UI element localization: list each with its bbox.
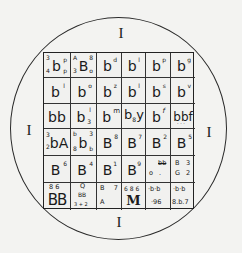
die-cell: B 4: [71, 156, 97, 183]
dots-mark: · · ·: [177, 120, 185, 126]
die-cell: 3 4 b p p: [44, 53, 71, 78]
label-mid: BB: [78, 191, 86, 198]
label-tr: d: [113, 57, 117, 63]
die-cell: b l: [122, 78, 146, 104]
die-cell: b f: [146, 104, 171, 129]
die-label: b: [177, 59, 186, 73]
die-label: B: [127, 136, 137, 150]
label-tl: b: [73, 131, 77, 137]
die-cell: A 3 B 8 o: [71, 53, 97, 78]
die-cell: B 5: [171, 129, 195, 156]
die-label: b: [152, 59, 161, 73]
wafer-diagram: I I I I 3 4 b p p A 3 B 8 o b d b l b p: [0, 0, 242, 253]
label-tr: 7: [114, 185, 118, 192]
label-br: o: [89, 68, 93, 74]
die-cell: 6 8 6 M: [122, 183, 146, 210]
die-label: b: [51, 85, 60, 99]
mark-left: I: [27, 123, 32, 138]
die-cell: b8y: [122, 104, 146, 129]
label-tl: B: [100, 185, 104, 192]
die-cell: B 9: [122, 156, 146, 183]
die-label: b: [103, 59, 112, 73]
die-cell: b z: [97, 78, 122, 104]
label-tl: 3: [46, 55, 50, 61]
die-label: b: [128, 85, 137, 99]
die-label: b: [78, 85, 87, 99]
die-label: B: [152, 136, 162, 150]
label-tr: m: [113, 108, 120, 114]
die-cell: B 3 G 2: [171, 156, 195, 183]
label-tl: A: [73, 55, 77, 61]
label-tr: p: [162, 57, 166, 63]
label-br: b: [89, 146, 93, 152]
label-bl: 8: [73, 146, 77, 152]
die-cell: 3 2 bA: [44, 129, 71, 156]
die-cell: bbf · · ·: [171, 104, 195, 129]
label-bottom: 8.b.7: [172, 199, 189, 206]
label-bl: A: [100, 199, 104, 206]
label-tr: o: [88, 83, 92, 89]
die-label-suffix: y: [136, 106, 144, 121]
label-top: 6 8 6: [124, 185, 139, 192]
die-label: B: [177, 136, 187, 150]
die-cell: bb: [44, 104, 71, 129]
die-cell: b p: [146, 53, 171, 78]
die-label: B: [77, 163, 87, 177]
die-cell: 8 6 BB: [44, 183, 71, 210]
die-label: B: [51, 163, 61, 177]
label-tr: 7: [138, 134, 142, 140]
label-tr: s: [163, 83, 166, 89]
label-tr: 4: [89, 161, 93, 167]
die-label: B: [127, 163, 137, 177]
label-tr: 9: [137, 161, 141, 167]
die-cell: b l 3: [71, 104, 97, 129]
mark-top: I: [119, 26, 124, 41]
die-cell: b 8 b 3 b: [71, 129, 97, 156]
label-tr: 2: [163, 134, 167, 140]
label-tr: g: [187, 57, 191, 63]
die-grid: 3 4 b p p A 3 B 8 o b d b l b p b g: [43, 52, 194, 209]
label-bl: o: [149, 170, 153, 177]
label-br: .: [159, 170, 161, 177]
die-label: b: [152, 85, 161, 99]
die-cell: b o: [71, 78, 97, 104]
die-label: bb: [48, 110, 66, 124]
label-bl: 4: [46, 68, 50, 74]
label-tr: 1: [113, 161, 117, 167]
label-bl: 3: [73, 68, 77, 74]
mark-bottom: I: [117, 215, 122, 230]
label-tr: f: [163, 108, 165, 114]
die-cell: B 1: [97, 156, 122, 183]
label-tr: l: [89, 107, 91, 113]
die-label: BB: [48, 193, 67, 207]
die-label: b: [77, 110, 86, 124]
die-label: b: [52, 59, 61, 73]
label-tr: 3: [89, 131, 93, 137]
die-label: b: [102, 110, 111, 124]
die-label: B: [79, 59, 89, 73]
die-cell: bb o .: [146, 156, 171, 183]
label-br: p: [63, 68, 67, 74]
label-top: ·b·b: [148, 186, 160, 193]
die-cell: ·b·b 8.b.7: [171, 183, 195, 210]
label-bottom: 3 + 2: [74, 201, 88, 208]
die-label: b8y: [124, 107, 144, 126]
label-tr: p: [63, 57, 67, 63]
die-cell: b v: [171, 78, 195, 104]
die-label: B: [103, 136, 113, 150]
label-br: 2: [186, 170, 190, 177]
die-label: b: [79, 136, 88, 150]
die-label: b: [128, 59, 137, 73]
die-cell: B 8: [97, 129, 122, 156]
label-tr: 3: [186, 160, 190, 167]
die-cell: b d: [97, 53, 122, 78]
label-tr: 6: [63, 161, 67, 167]
die-cell: b m: [97, 104, 122, 129]
label-top: Q: [80, 183, 85, 190]
die-cell: B 7 A: [97, 183, 122, 210]
label-top: ·b·b: [173, 186, 185, 193]
label-tr: l: [63, 83, 65, 89]
die-label: bA: [50, 136, 68, 150]
label-bottom: ·96: [151, 199, 161, 206]
label-tr: l: [138, 83, 140, 89]
